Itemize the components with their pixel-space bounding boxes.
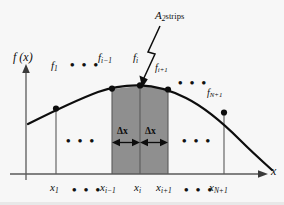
node-marker-fi-minus-1: [109, 86, 115, 92]
ellipsis-bottom-right: • • •: [184, 183, 214, 196]
node-marker-fN-plus-1: [221, 109, 227, 115]
figure-container: f (x) x A2strips f1 fi−1 fi fi+1 fN+1 Δx…: [0, 0, 284, 205]
ellipsis-top-right: • • •: [178, 76, 208, 89]
page-bottom-edge: [0, 202, 284, 205]
curve-label-fN-plus-1-sub: N+1: [210, 91, 223, 98]
curve-label-fi-sub: i: [136, 56, 138, 65]
x-axis-arrowhead: [258, 170, 268, 178]
ellipsis-middle-left: • • •: [66, 134, 96, 147]
tick-label-x1-sub: 1: [55, 186, 59, 195]
x-axis-label: x: [271, 165, 276, 177]
annotation-suffix: strips: [165, 11, 184, 21]
ellipsis-top: • • •: [70, 58, 100, 71]
curve-label-fi-plus-1: fi+1: [155, 63, 168, 74]
tick-label-xi-minus-1-sub: i−1: [105, 186, 116, 195]
tick-label-xi-sub: i: [139, 186, 141, 195]
curve-label-fi-minus-1-sub: i−1: [101, 56, 112, 65]
node-marker-fi-plus-1: [165, 86, 171, 92]
curve-label-fN-plus-1: fN+1: [207, 88, 222, 99]
delta-x-left-label: Δx: [117, 127, 128, 137]
annotation-a2-strips: A2strips: [155, 10, 185, 22]
tick-label-xi: xi: [134, 182, 141, 194]
tick-label-xi-plus-1-sub: i+1: [161, 186, 172, 195]
curve-label-fi: fi: [133, 52, 138, 64]
y-axis-arrowhead: [22, 64, 30, 73]
y-axis-label: f (x): [13, 51, 33, 63]
annotation-symbol: A: [155, 9, 162, 21]
node-marker-f1: [53, 105, 59, 111]
tick-label-xN-plus-1-sub: N+1: [214, 186, 228, 195]
curve-label-f1: f1: [51, 60, 58, 72]
tick-label-xi-plus-1: xi+1: [156, 182, 172, 194]
ellipsis-bottom-left: • • •: [72, 183, 102, 196]
figure-canvas: [0, 0, 284, 205]
tick-label-xi-minus-1: xi−1: [100, 182, 116, 194]
curve-label-fi-plus-1-sub: i+1: [158, 66, 168, 73]
ellipsis-middle-right: • • •: [182, 134, 212, 147]
delta-x-right-label: Δx: [145, 127, 156, 137]
tick-label-x1: x1: [50, 182, 59, 194]
curve-label-f1-sub: 1: [54, 64, 58, 73]
